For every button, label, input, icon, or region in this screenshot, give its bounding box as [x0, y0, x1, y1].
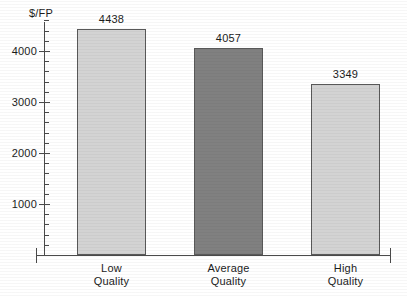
y-tick-label-wrap: 1000	[0, 198, 37, 210]
bar-value-label: 4057	[194, 32, 263, 44]
y-tick-minor	[44, 143, 49, 144]
y-tick-label: 4000	[0, 45, 37, 57]
bar	[194, 48, 263, 255]
category-label-line: Quality	[178, 275, 279, 288]
bar-value-label: 4438	[77, 13, 146, 25]
y-tick-major	[39, 102, 50, 103]
x-axis-end-tick	[390, 248, 391, 263]
bar-value-label: 3349	[311, 68, 380, 80]
y-tick-label: 2000	[0, 147, 37, 159]
y-tick-minor	[44, 112, 49, 113]
category-label-line: Quality	[61, 275, 162, 288]
bar	[77, 29, 146, 255]
category-label-line: Low	[61, 262, 162, 275]
y-tick-minor	[44, 184, 49, 185]
y-tick-major	[39, 51, 50, 52]
category-label-line: High	[295, 262, 396, 275]
y-tick-minor	[44, 92, 49, 93]
y-tick-major	[39, 153, 50, 154]
y-tick-minor	[44, 245, 49, 246]
category-label-line: Average	[178, 262, 279, 275]
y-tick-minor	[44, 173, 49, 174]
y-tick-minor	[44, 194, 49, 195]
y-tick-minor	[44, 71, 49, 72]
y-tick-minor	[44, 31, 49, 32]
y-axis-title: $/FP	[29, 7, 53, 19]
category-label-line: Quality	[295, 275, 396, 288]
x-axis-line	[36, 255, 391, 256]
y-tick-major	[39, 204, 50, 205]
category-label: AverageQuality	[178, 262, 279, 288]
y-axis-line	[44, 22, 45, 256]
y-tick-minor	[44, 235, 49, 236]
y-tick-label-wrap: 3000	[0, 96, 37, 108]
y-tick-minor	[44, 163, 49, 164]
y-tick-minor	[44, 133, 49, 134]
y-tick-minor	[44, 82, 49, 83]
category-label: LowQuality	[61, 262, 162, 288]
y-tick-minor	[44, 122, 49, 123]
y-tick-minor	[44, 61, 49, 62]
y-tick-label: 1000	[0, 198, 37, 210]
y-tick-minor	[44, 20, 49, 21]
y-tick-label-wrap: 2000	[0, 147, 37, 159]
bar-chart: $/FP 1000200030004000 443840573349 LowQu…	[0, 0, 407, 296]
x-axis-origin-tick	[36, 248, 37, 263]
y-tick-minor	[44, 224, 49, 225]
y-tick-minor	[44, 214, 49, 215]
category-label: HighQuality	[295, 262, 396, 288]
y-tick-label-wrap: 4000	[0, 45, 37, 57]
bar	[311, 84, 380, 255]
y-tick-label: 3000	[0, 96, 37, 108]
y-tick-minor	[44, 41, 49, 42]
